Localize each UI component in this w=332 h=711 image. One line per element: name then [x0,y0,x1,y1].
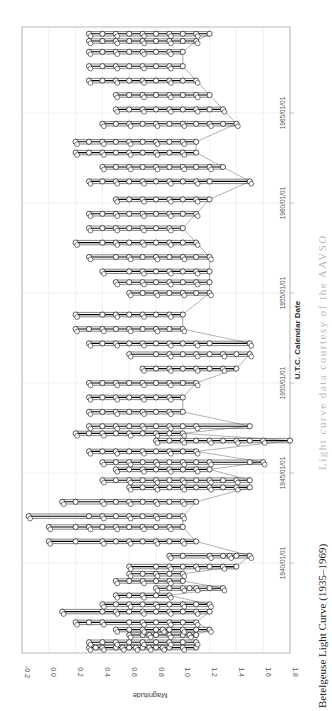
magnitude-tick-label: 0.2 [77,667,84,677]
magnitude-axis-label: Magnitude [132,691,167,700]
magnitude-tick-label: -0.2 [24,666,31,678]
date-axis-label: U.T.C. Calendar Date [293,300,302,379]
magnitude-tick-label: 1.6 [265,667,272,677]
date-tick-label: 1940/01/01 [279,546,286,579]
figure-caption: Betelgeuse Light Curve (1935–1969) [316,544,329,708]
date-tick-label: 1950/01/01 [279,366,286,399]
magnitude-axis-ticks: -0.20.00.20.40.60.81.01.21.41.61.8 [24,666,299,678]
figure-credit: Light curve data courtesy of the AAVSO [316,234,328,470]
magnitude-tick-label: 0.6 [131,667,138,677]
date-axis-ticks: 1940/01/011945/01/011950/01/011955/01/01… [279,96,294,579]
date-tick-label: 1965/01/01 [279,96,286,129]
magnitude-tick-label: 0.8 [158,667,165,677]
magnitude-tick-label: 0.0 [50,667,57,677]
magnitude-tick-label: 1.0 [184,667,191,677]
date-tick-label: 1960/01/01 [279,186,286,219]
date-tick-label: 1945/01/01 [279,456,286,489]
magnitude-tick-label: 0.4 [104,667,111,677]
magnitude-tick-label: 1.4 [238,667,245,677]
magnitude-tick-label: 1.2 [211,667,218,677]
date-tick-label: 1955/01/01 [279,276,286,309]
light-curve-chart: -0.20.00.20.40.60.81.01.21.41.61.8 1940/… [0,0,332,711]
data-series [26,31,293,652]
magnitude-tick-label: 1.8 [292,667,299,677]
